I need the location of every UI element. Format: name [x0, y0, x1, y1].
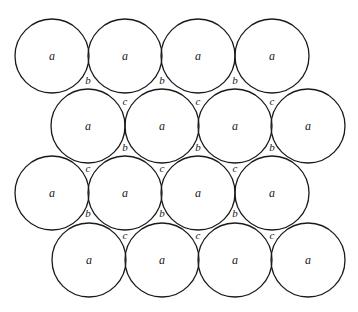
circle: a: [271, 89, 345, 163]
circle: a: [235, 19, 309, 93]
circle-label: a: [305, 119, 311, 133]
gap-label-b: b: [232, 74, 238, 86]
gap-label-c: c: [123, 95, 128, 107]
circle: a: [51, 89, 125, 163]
circle-label: a: [195, 49, 201, 63]
gap-label-c: c: [196, 229, 201, 241]
circle-label: a: [195, 186, 201, 200]
circle-label: a: [122, 49, 128, 63]
circle-label: a: [86, 253, 92, 267]
gap-label-c: c: [270, 229, 275, 241]
circle: a: [88, 156, 162, 230]
circle: a: [88, 19, 162, 93]
gap-label-c: c: [196, 95, 201, 107]
gap-label-b: b: [85, 207, 91, 219]
circles-group: aaaaaaaaaaaaaaaa: [15, 19, 345, 297]
gap-label-b: b: [122, 141, 128, 153]
circle: a: [235, 156, 309, 230]
circle-label: a: [269, 186, 275, 200]
gap-label-b: b: [85, 74, 91, 86]
circle-label: a: [159, 253, 165, 267]
circle: a: [161, 156, 235, 230]
gap-label-b: b: [159, 74, 165, 86]
gap-label-c: c: [86, 162, 91, 174]
circle: a: [125, 223, 199, 297]
circle: a: [161, 19, 235, 93]
circle: a: [125, 89, 199, 163]
gap-label-c: c: [123, 229, 128, 241]
gap-label-b: b: [269, 141, 275, 153]
circle: a: [198, 89, 272, 163]
gap-label-c: c: [270, 95, 275, 107]
gap-label-c: c: [233, 162, 238, 174]
gap-label-b: b: [159, 207, 165, 219]
circle-packing-diagram: aaaaaaaaaaaaaaaa bbbcccbbbcccbbbccc: [0, 0, 358, 312]
circle-label: a: [49, 186, 55, 200]
gap-label-b: b: [232, 207, 238, 219]
circle-label: a: [232, 119, 238, 133]
gap-label-c: c: [160, 162, 165, 174]
circle-label: a: [269, 49, 275, 63]
circle: a: [198, 223, 272, 297]
circle: a: [52, 223, 126, 297]
circle-label: a: [232, 253, 238, 267]
circle-label: a: [122, 186, 128, 200]
gap-label-b: b: [195, 141, 201, 153]
circle-label: a: [85, 119, 91, 133]
circle: a: [15, 19, 89, 93]
circle: a: [271, 223, 345, 297]
circle-label: a: [49, 49, 55, 63]
circle: a: [15, 156, 89, 230]
circle-label: a: [305, 253, 311, 267]
circle-label: a: [159, 119, 165, 133]
